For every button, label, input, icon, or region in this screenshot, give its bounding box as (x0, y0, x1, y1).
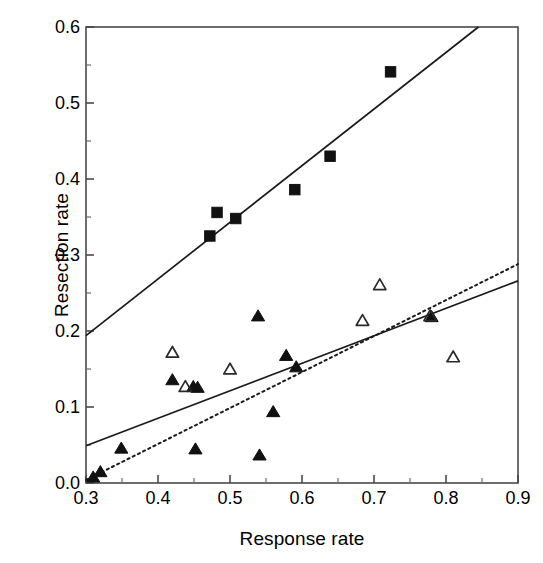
data-point-filled-triangle (280, 349, 293, 360)
y-axis-title-wrap: Resection rate (4, 27, 34, 483)
data-point-filled-square (325, 151, 335, 161)
data-point-filled-triangle (253, 449, 266, 460)
x-tick-label: 0.6 (272, 489, 332, 507)
data-point-filled-triangle (166, 374, 179, 385)
x-tick-label: 0.5 (200, 489, 260, 507)
x-tick-label: 0.4 (128, 489, 188, 507)
data-points (87, 67, 460, 482)
data-point-filled-square (231, 213, 241, 223)
data-point-open-triangle (166, 346, 178, 357)
plot-canvas (0, 0, 543, 563)
data-point-filled-triangle (267, 406, 280, 417)
data-point-filled-triangle (290, 361, 303, 372)
x-tick-label: 0.3 (56, 489, 116, 507)
data-point-open-triangle (224, 363, 236, 374)
axis-ticks (86, 27, 518, 483)
x-tick-label: 0.9 (488, 489, 543, 507)
data-point-filled-square (385, 67, 395, 77)
y-axis-title: Resection rate (51, 125, 73, 385)
axis-frame (86, 27, 518, 483)
lower-solid-line (86, 281, 518, 446)
data-point-filled-triangle (189, 443, 202, 454)
x-tick-label: 0.8 (416, 489, 476, 507)
x-tick-label: 0.7 (344, 489, 404, 507)
data-point-filled-triangle (251, 310, 264, 321)
data-point-open-triangle (374, 279, 386, 290)
data-point-filled-triangle (94, 466, 107, 477)
trendlines (86, 27, 518, 480)
chart-figure: 0.00.10.20.30.40.50.6 0.30.40.50.60.70.8… (0, 0, 543, 563)
upper-solid-line (86, 27, 478, 336)
data-point-filled-square (290, 184, 300, 194)
data-point-open-triangle (356, 315, 368, 326)
data-point-filled-triangle (115, 442, 128, 453)
x-axis-title: Response rate (86, 528, 518, 550)
data-point-filled-square (212, 207, 222, 217)
data-point-open-triangle (447, 351, 459, 362)
data-point-filled-square (205, 231, 215, 241)
